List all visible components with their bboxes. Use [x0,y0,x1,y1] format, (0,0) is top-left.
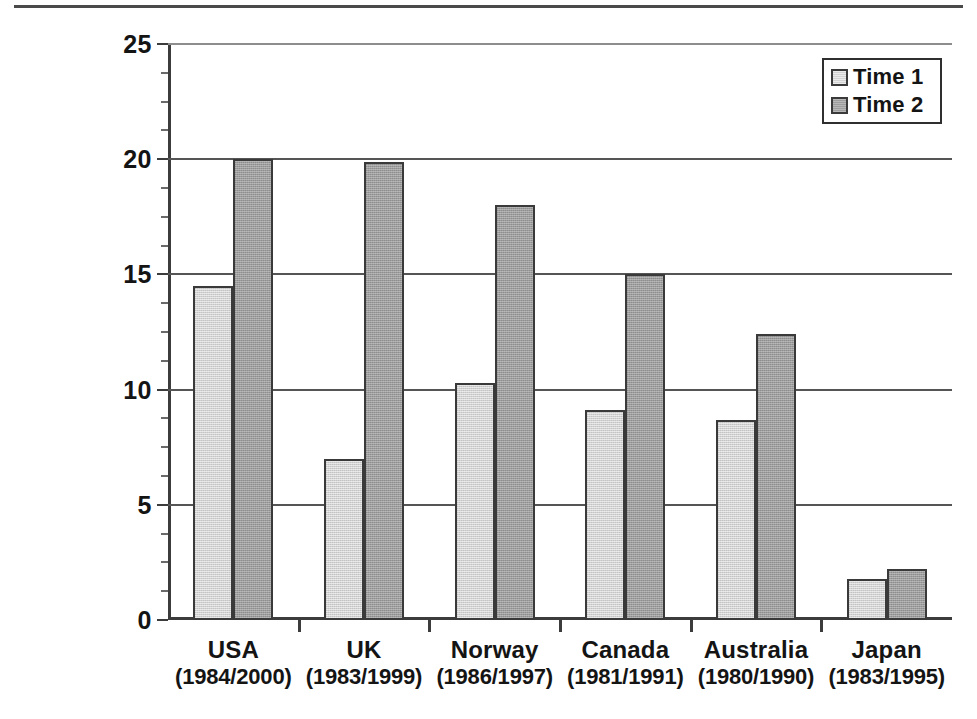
y-tick-5 [157,504,168,506]
bar-norway-time-1 [455,383,495,620]
y-minor-tick [161,533,168,535]
y-minor-tick [161,475,168,477]
y-axis-label-25: 25 [123,30,152,59]
x-axis-label-canada: Canada(1981/1991) [560,636,691,690]
y-minor-tick [161,331,168,333]
bar-japan-time-1 [847,579,887,620]
y-minor-tick [161,590,168,592]
y-axis-label-15: 15 [123,260,152,289]
y-minor-tick [161,561,168,563]
y-axis-label-5: 5 [138,490,152,519]
x-axis-label-australia: Australia(1980/1990) [691,636,822,690]
bar-uk-time-2 [364,162,404,620]
y-minor-tick [161,129,168,131]
bar-australia-time-1 [716,420,756,620]
y-minor-tick [161,446,168,448]
y-minor-tick [161,101,168,103]
x-axis-tick [820,620,823,632]
bar-usa-time-1 [193,286,233,620]
x-axis-label-name: USA [168,636,299,664]
x-axis-labels-group: USA(1984/2000)UK(1983/1999)Norway(1986/1… [168,636,952,708]
y-axis-label-20: 20 [123,145,152,174]
x-axis-label-name: Norway [429,636,560,664]
y-axis-label-0: 0 [138,606,152,635]
bar-australia-time-2 [756,334,796,620]
x-axis-label-name: UK [299,636,430,664]
bar-norway-time-2 [495,205,535,620]
y-tick-15 [157,273,168,275]
bars-layer [168,44,952,620]
legend-entry-time-1: Time 1 [831,64,934,90]
page-rule-divider [14,5,963,8]
y-tick-0 [157,619,168,621]
x-axis-tick [559,620,562,632]
legend-swatch-time-1-icon [831,69,848,86]
x-axis-label-japan: Japan(1983/1995) [821,636,952,690]
bar-canada-time-2 [625,274,665,620]
x-axis-label-years: (1986/1997) [429,664,560,690]
x-axis-tick [428,620,431,632]
bar-chart-figure: % Obese (BMI ≥ 30) 0510152025 USA(1984/2… [0,0,977,719]
y-tick-10 [157,389,168,391]
x-axis-label-years: (1980/1990) [691,664,822,690]
y-minor-tick [161,245,168,247]
chart-legend: Time 1 Time 2 [822,58,942,124]
y-axis-label-10: 10 [123,375,152,404]
x-axis-label-years: (1983/1999) [299,664,430,690]
y-minor-tick [161,302,168,304]
y-minor-tick [161,417,168,419]
x-axis-tick [690,620,693,632]
bar-japan-time-2 [887,569,927,620]
x-axis-label-name: Australia [691,636,822,664]
x-axis-label-years: (1981/1991) [560,664,691,690]
legend-entry-time-2: Time 2 [831,92,934,118]
x-axis-label-name: Japan [821,636,952,664]
bar-uk-time-1 [324,459,364,620]
x-axis-label-years: (1983/1995) [821,664,952,690]
y-tick-25 [157,43,168,45]
bar-usa-time-2 [233,159,273,620]
legend-label-time-1: Time 1 [853,64,924,90]
legend-label-time-2: Time 2 [853,92,924,118]
x-axis-label-name: Canada [560,636,691,664]
y-minor-tick [161,187,168,189]
x-axis-label-norway: Norway(1986/1997) [429,636,560,690]
y-minor-tick [161,216,168,218]
legend-swatch-time-2-icon [831,97,848,114]
x-axis-tick [298,620,301,632]
bar-canada-time-1 [585,410,625,620]
y-minor-tick [161,360,168,362]
x-axis-label-years: (1984/2000) [168,664,299,690]
x-axis-label-uk: UK(1983/1999) [299,636,430,690]
x-axis-label-usa: USA(1984/2000) [168,636,299,690]
plot-area: 0510152025 [168,44,952,620]
y-tick-20 [157,158,168,160]
y-minor-tick [161,72,168,74]
